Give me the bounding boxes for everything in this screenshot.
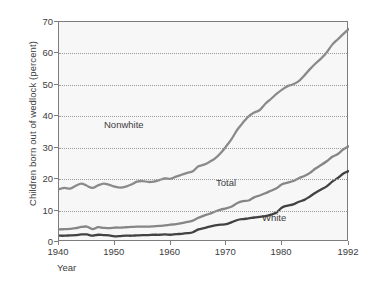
- x-axis-title: Year: [57, 262, 76, 273]
- gridline-y-10: [59, 211, 347, 212]
- line-series-total: [59, 146, 349, 229]
- y-tick-label-0: 0: [27, 236, 53, 247]
- x-tick-mark-1960: [170, 241, 171, 245]
- x-tick-mark-1980: [281, 241, 282, 245]
- y-tick-label-50: 50: [27, 78, 53, 89]
- y-tick-label-10: 10: [27, 204, 53, 215]
- x-tick-mark-1950: [114, 241, 115, 245]
- series-label-white: White: [262, 212, 286, 223]
- series-label-total: Total: [216, 177, 236, 188]
- y-tick-label-40: 40: [27, 110, 53, 121]
- x-tick-mark-1970: [225, 241, 226, 245]
- series-label-nonwhite: Nonwhite: [104, 119, 144, 130]
- x-tick-mark-1992: [348, 241, 349, 245]
- chart-figure: Children born out of wedlock (percent) 0…: [0, 0, 381, 289]
- y-tick-label-20: 20: [27, 173, 53, 184]
- series-lines: [59, 22, 349, 242]
- y-tick-label-70: 70: [27, 16, 53, 27]
- x-tick-label-1970: 1970: [215, 246, 236, 257]
- gridline-y-20: [59, 179, 347, 180]
- gridline-y-30: [59, 148, 347, 149]
- x-tick-label-1940: 1940: [47, 246, 68, 257]
- x-tick-label-1992: 1992: [337, 246, 358, 257]
- gridline-y-50: [59, 85, 347, 86]
- x-tick-mark-1940: [58, 241, 59, 245]
- x-tick-label-1950: 1950: [103, 246, 124, 257]
- gridline-y-40: [59, 116, 347, 117]
- plot-inner: [59, 22, 347, 240]
- y-tick-label-30: 30: [27, 141, 53, 152]
- plot-area: [58, 21, 348, 241]
- x-tick-label-1960: 1960: [159, 246, 180, 257]
- y-tick-label-60: 60: [27, 47, 53, 58]
- y-axis-tick-labels: 010203040506070: [25, 21, 53, 241]
- gridline-y-60: [59, 53, 347, 54]
- x-tick-label-1980: 1980: [270, 246, 291, 257]
- x-axis-tick-labels: 194019501960197019801992: [58, 246, 348, 260]
